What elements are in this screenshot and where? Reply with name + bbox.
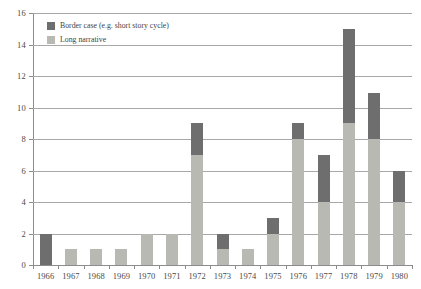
y-tick-label-2: 2: [0, 230, 26, 239]
x-tick-mark-1978: [336, 265, 337, 269]
bar-segment-long-narrative-1976: [292, 139, 304, 265]
chart-legend: Border case (e.g. short story cycle) Lon…: [47, 20, 169, 48]
bars-layer: [33, 13, 412, 265]
y-tick-label-8: 8: [0, 135, 26, 144]
bar-1974: [242, 13, 254, 265]
x-tick-mark-1969: [109, 265, 110, 269]
x-tick-label-1967: 1967: [58, 272, 83, 281]
bar-1969: [115, 13, 127, 265]
bar-segment-long-narrative-1974: [242, 249, 254, 265]
bar-segment-border-case-1972: [191, 123, 203, 155]
bar-segment-border-case-1973: [217, 234, 229, 250]
y-tick-label-6: 6: [0, 167, 26, 176]
bar-segment-border-case-1975: [267, 218, 279, 234]
x-tick-mark-1970: [134, 265, 135, 269]
y-tick-mark-6: [29, 171, 33, 172]
y-tick-label-4: 4: [0, 198, 26, 207]
x-tick-label-1969: 1969: [109, 272, 134, 281]
bar-1980: [393, 13, 405, 265]
x-tick-label-1971: 1971: [159, 272, 184, 281]
x-tick-label-1976: 1976: [286, 272, 311, 281]
x-axis-line: [33, 265, 412, 266]
legend-item-long-narrative: Long narrative: [47, 34, 169, 45]
bar-segment-long-narrative-1970: [141, 234, 153, 266]
bar-segment-border-case-1976: [292, 123, 304, 139]
x-tick-mark-1974: [235, 265, 236, 269]
x-tick-mark-1976: [286, 265, 287, 269]
bar-1971: [166, 13, 178, 265]
x-tick-label-1968: 1968: [84, 272, 109, 281]
bar-1966: [40, 13, 52, 265]
x-tick-mark-1980: [387, 265, 388, 269]
y-tick-label-10: 10: [0, 104, 26, 113]
legend-swatch-border-case: [47, 22, 55, 30]
x-tick-label-1970: 1970: [134, 272, 159, 281]
bar-1973: [217, 13, 229, 265]
x-tick-mark-1973: [210, 265, 211, 269]
x-tick-mark-1975: [260, 265, 261, 269]
stacked-bar-chart: 0246810121416 19661967196819691970197119…: [0, 0, 421, 289]
x-tick-mark-1968: [84, 265, 85, 269]
bar-segment-long-narrative-1972: [191, 155, 203, 265]
x-tick-label-1974: 1974: [235, 272, 260, 281]
x-tick-label-1980: 1980: [387, 272, 412, 281]
bar-1976: [292, 13, 304, 265]
x-tick-mark-1971: [159, 265, 160, 269]
bar-segment-border-case-1980: [393, 171, 405, 203]
x-tick-mark-end: [412, 265, 413, 269]
x-tick-label-1973: 1973: [210, 272, 235, 281]
bar-segment-border-case-1966: [40, 234, 52, 266]
legend-label-long-narrative: Long narrative: [60, 36, 106, 44]
bar-segment-long-narrative-1969: [115, 249, 127, 265]
bar-segment-long-narrative-1977: [318, 202, 330, 265]
bar-segment-long-narrative-1978: [343, 123, 355, 265]
y-tick-mark-12: [29, 76, 33, 77]
bar-1972: [191, 13, 203, 265]
legend-swatch-long-narrative: [47, 36, 55, 44]
bar-1978: [343, 13, 355, 265]
y-tick-mark-4: [29, 202, 33, 203]
y-tick-label-16: 16: [0, 9, 26, 18]
y-tick-label-14: 14: [0, 41, 26, 50]
y-tick-label-12: 12: [0, 72, 26, 81]
bar-segment-long-narrative-1980: [393, 202, 405, 265]
x-tick-mark-1966: [33, 265, 34, 269]
y-tick-mark-14: [29, 45, 33, 46]
x-tick-label-1975: 1975: [260, 272, 285, 281]
x-tick-mark-1967: [58, 265, 59, 269]
bar-segment-border-case-1977: [318, 155, 330, 202]
bar-segment-long-narrative-1968: [90, 249, 102, 265]
bar-1979: [368, 13, 380, 265]
x-tick-label-1978: 1978: [336, 272, 361, 281]
bar-1967: [65, 13, 77, 265]
y-tick-mark-8: [29, 139, 33, 140]
bar-segment-long-narrative-1979: [368, 139, 380, 265]
x-tick-label-1972: 1972: [185, 272, 210, 281]
bar-segment-border-case-1978: [343, 29, 355, 124]
y-tick-label-0: 0: [0, 261, 26, 270]
x-tick-mark-1972: [185, 265, 186, 269]
plot-area: [33, 13, 412, 265]
bar-segment-long-narrative-1967: [65, 249, 77, 265]
x-tick-mark-1979: [361, 265, 362, 269]
bar-1977: [318, 13, 330, 265]
bar-segment-long-narrative-1973: [217, 249, 229, 265]
legend-label-border-case: Border case (e.g. short story cycle): [60, 22, 169, 30]
bar-1970: [141, 13, 153, 265]
y-tick-mark-16: [29, 13, 33, 14]
bar-1968: [90, 13, 102, 265]
x-tick-label-1966: 1966: [33, 272, 58, 281]
bar-segment-long-narrative-1975: [267, 234, 279, 266]
bar-segment-border-case-1979: [368, 93, 380, 139]
x-tick-label-1977: 1977: [311, 272, 336, 281]
bar-1975: [267, 13, 279, 265]
x-tick-label-1979: 1979: [361, 272, 386, 281]
legend-item-border-case: Border case (e.g. short story cycle): [47, 20, 169, 31]
bar-segment-long-narrative-1971: [166, 234, 178, 266]
y-tick-mark-10: [29, 108, 33, 109]
x-tick-mark-1977: [311, 265, 312, 269]
y-tick-mark-2: [29, 234, 33, 235]
